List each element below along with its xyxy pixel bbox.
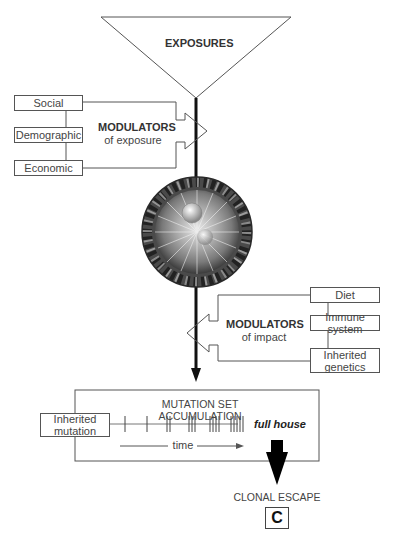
modulators-exposure-subtitle: of exposure [98, 134, 168, 146]
inherited-mutation-line1: Inherited [54, 413, 97, 425]
exposures-label: EXPOSURES [165, 37, 229, 49]
modulator-box-immune-system: Immune system [310, 315, 380, 331]
modulator-box-economic: Economic [14, 160, 83, 176]
full-house-label: full house [254, 418, 306, 430]
diagram-canvas [0, 0, 394, 540]
inherited-genetics-line1: Inherited [324, 349, 367, 361]
exposures-funnel [101, 17, 291, 98]
clonal-escape-label: CLONAL ESCAPE [227, 491, 327, 503]
roulette-wheel [142, 177, 252, 287]
modulators-impact-title: MODULATORS [226, 318, 302, 330]
modulators-exposure-title: MODULATORS [98, 121, 168, 133]
inherited-genetics-line2: genetics [325, 361, 366, 373]
panel-letter: C [265, 507, 289, 529]
modulator-box-social: Social [14, 95, 83, 111]
modulator-box-demographic: Demographic [14, 127, 83, 143]
main-axis-arrowhead [191, 368, 201, 382]
time-label: time [170, 439, 196, 451]
modulator-box-diet: Diet [310, 287, 380, 303]
inherited-mutation-box: Inherited mutation [40, 413, 110, 437]
modulators-impact-subtitle: of impact [226, 331, 302, 343]
modulator-box-inherited-genetics: Inherited genetics [310, 348, 380, 373]
inherited-mutation-line2: mutation [54, 425, 96, 437]
